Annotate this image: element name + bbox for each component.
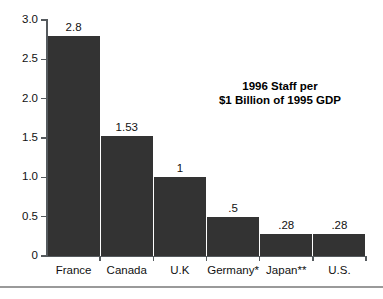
y-axis-tick-label: 2.5 [0, 53, 38, 65]
chart-title-line-1: 1996 Staff per [180, 79, 380, 93]
bar-value-label: 1.53 [87, 122, 167, 134]
y-axis-tick-label: 0.5 [0, 211, 38, 223]
bar [260, 234, 312, 256]
x-axis-tick [153, 256, 154, 261]
y-axis-tick [41, 59, 46, 60]
x-axis-tick [312, 256, 313, 261]
bottom-divider-rule [0, 286, 383, 288]
bar [48, 36, 100, 256]
bar [101, 136, 153, 256]
y-axis-tick-label: 3.0 [0, 14, 38, 26]
bar-value-label: 2.8 [34, 22, 114, 34]
x-axis-tick [206, 256, 207, 261]
y-axis-tick [41, 177, 46, 178]
x-axis-category-label: U.S. [299, 264, 379, 276]
bar-value-label: 1 [140, 163, 220, 175]
chart-title: 1996 Staff per $1 Billion of 1995 GDP [180, 79, 380, 107]
y-axis-tick [41, 19, 46, 20]
y-axis-tick-label: 2.0 [0, 93, 38, 105]
y-axis-tick [41, 98, 46, 99]
bar [154, 177, 206, 256]
y-axis-tick-label: 1.0 [0, 171, 38, 183]
y-axis-tick-label: 0 [0, 250, 38, 262]
x-axis-tick [99, 256, 100, 261]
y-axis-tick [41, 137, 46, 138]
bar-chart-figure: 00.51.01.52.02.53.0 2.81.531.5.28.28 Fra… [0, 0, 383, 299]
x-axis-tick [365, 256, 366, 261]
y-axis-tick [41, 255, 46, 256]
bar-value-label: .28 [299, 220, 379, 232]
bar [313, 234, 365, 256]
y-axis-tick [41, 216, 46, 217]
y-axis-tick-label: 1.5 [0, 132, 38, 144]
bar-value-label: .5 [193, 203, 273, 215]
x-axis-tick [259, 256, 260, 261]
chart-title-line-2: $1 Billion of 1995 GDP [180, 93, 380, 107]
y-axis-tick-labels: 00.51.01.52.02.53.0 [0, 0, 38, 299]
